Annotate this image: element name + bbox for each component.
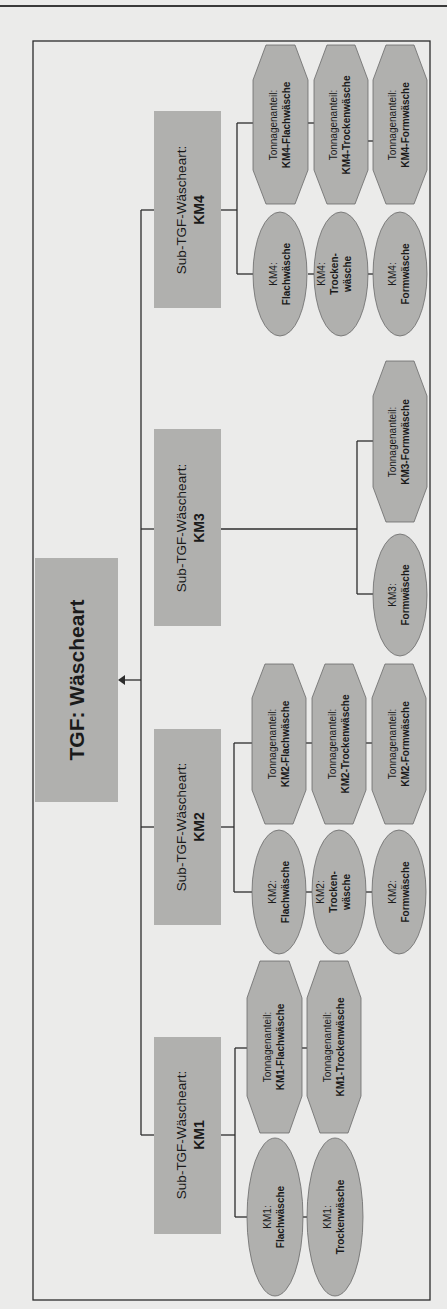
svg-text:Tonnagenanteil:: Tonnagenanteil: bbox=[328, 90, 339, 161]
svg-text:KM1-Trockenwäsche: KM1-Trockenwäsche bbox=[335, 997, 346, 1096]
svg-text:KM2:: KM2: bbox=[315, 880, 326, 903]
svg-text:KM3-Formwäsche: KM3-Formwäsche bbox=[400, 399, 411, 485]
root-label: TGF: Wäscheart bbox=[65, 599, 88, 760]
svg-text:KM2-Trockenwäsche: KM2-Trockenwäsche bbox=[340, 694, 351, 793]
subgroup-km2: Sub-TGF-Wäscheart: KM2 Tonnagenanteil: K… bbox=[154, 664, 426, 954]
root-node: TGF: Wäscheart bbox=[35, 558, 118, 802]
ellipse-km4-flach: KM4: Flachwäsche bbox=[253, 212, 307, 336]
sub-title-km3: Sub-TGF-Wäscheart: bbox=[174, 464, 189, 592]
ellipse-km1-flach: KM1: Flachwäsche bbox=[247, 1138, 303, 1296]
svg-text:KM4-Flachwäsche: KM4-Flachwäsche bbox=[281, 81, 292, 168]
arrow-to-root bbox=[118, 675, 141, 685]
ellipse-km4-form: KM4: Formwäsche bbox=[373, 212, 427, 336]
svg-text:Tonnagenanteil:: Tonnagenanteil: bbox=[327, 709, 338, 780]
ellipse-km4-trocken: KM4: Trocken- wäsche bbox=[314, 212, 368, 336]
svg-text:Tonnagenanteil:: Tonnagenanteil: bbox=[262, 1012, 273, 1083]
sub-title-km4: Sub-TGF-Wäscheart: bbox=[174, 146, 189, 274]
ellipse-km2-form: KM2: Formwäsche bbox=[372, 830, 426, 954]
svg-text:KM1:: KM1: bbox=[262, 1205, 273, 1228]
svg-text:Tonnagenanteil:: Tonnagenanteil: bbox=[387, 90, 398, 161]
arrowhead-icon bbox=[118, 675, 125, 685]
octagon-km4-flach: Tonnagenanteil: KM4-Flachwäsche bbox=[253, 45, 308, 204]
octagon-km4-form: Tonnagenanteil: KM4-Formwäsche bbox=[373, 45, 427, 204]
svg-text:KM4:: KM4: bbox=[387, 262, 398, 285]
svg-text:KM1-Flachwäsche: KM1-Flachwäsche bbox=[275, 1003, 286, 1090]
svg-text:KM4:: KM4: bbox=[268, 262, 279, 285]
octagon-km1-flach: Tonnagenanteil: KM1-Flachwäsche bbox=[247, 961, 302, 1133]
svg-text:KM4-Trockenwäsche: KM4-Trockenwäsche bbox=[341, 75, 352, 174]
svg-text:Flachwäsche: Flachwäsche bbox=[281, 242, 292, 305]
svg-text:Formwäsche: Formwäsche bbox=[400, 243, 411, 305]
hierarchy-diagram: TGF: Wäscheart Sub-TGF-Wäscheart: KM4 To… bbox=[0, 0, 447, 1309]
svg-text:Tonnagenanteil:: Tonnagenanteil: bbox=[387, 407, 398, 478]
sub-code-km3: KM3 bbox=[191, 513, 207, 543]
svg-text:KM4-Formwäsche: KM4-Formwäsche bbox=[400, 82, 411, 168]
subgroup-km1: Sub-TGF-Wäscheart: KM1 Tonnagenanteil: K… bbox=[154, 961, 363, 1296]
sub-code-km2: KM2 bbox=[191, 812, 207, 842]
octagon-km2-form: Tonnagenanteil: KM2-Formwäsche bbox=[372, 664, 426, 824]
svg-text:Tonnagenanteil:: Tonnagenanteil: bbox=[387, 709, 398, 780]
octagon-km1-trocken: Tonnagenanteil: KM1-Trockenwäsche bbox=[307, 961, 361, 1133]
svg-text:Formwäsche: Formwäsche bbox=[400, 564, 411, 626]
octagon-km2-trocken: Tonnagenanteil: KM2-Trockenwäsche bbox=[312, 664, 366, 824]
svg-text:KM4:: KM4: bbox=[316, 262, 327, 285]
svg-text:KM2:: KM2: bbox=[387, 880, 398, 903]
svg-text:KM3:: KM3: bbox=[387, 583, 398, 606]
subgroup-km3: Sub-TGF-Wäscheart: KM3 Tonnagenanteil: K… bbox=[154, 361, 427, 656]
svg-text:Trocken-: Trocken- bbox=[329, 253, 340, 295]
svg-text:KM2-Formwäsche: KM2-Formwäsche bbox=[400, 701, 411, 787]
svg-text:Tonnagenanteil:: Tonnagenanteil: bbox=[322, 1012, 333, 1083]
ellipse-km1-trocken: KM1: Trockenwäsche bbox=[307, 1138, 363, 1296]
svg-text:Trocken-: Trocken- bbox=[328, 871, 339, 913]
svg-text:KM1:: KM1: bbox=[322, 1205, 333, 1228]
svg-text:Tonnagenanteil:: Tonnagenanteil: bbox=[267, 709, 278, 780]
subgroup-km4: Sub-TGF-Wäscheart: KM4 Tonnagenanteil: K… bbox=[154, 45, 427, 336]
svg-text:Trockenwäsche: Trockenwäsche bbox=[335, 1179, 346, 1254]
svg-text:Flachwäsche: Flachwäsche bbox=[275, 1185, 286, 1248]
sub-title-km2: Sub-TGF-Wäscheart: bbox=[174, 763, 189, 891]
svg-text:wäsche: wäsche bbox=[342, 255, 353, 293]
ellipse-km2-trocken: KM2: Trocken- wäsche bbox=[312, 830, 366, 954]
svg-text:Flachwäsche: Flachwäsche bbox=[280, 860, 291, 923]
sub-title-km1: Sub-TGF-Wäscheart: bbox=[174, 1071, 189, 1199]
octagon-km4-trocken: Tonnagenanteil: KM4-Trockenwäsche bbox=[314, 45, 368, 204]
ellipse-km3-form: KM3: Formwäsche bbox=[373, 534, 427, 656]
svg-text:Tonnagenanteil:: Tonnagenanteil: bbox=[268, 90, 279, 161]
sub-code-km4: KM4 bbox=[191, 195, 207, 225]
svg-text:KM2-Flachwäsche: KM2-Flachwäsche bbox=[280, 700, 291, 787]
sub-code-km1: KM1 bbox=[191, 1120, 207, 1150]
svg-text:wäsche: wäsche bbox=[341, 873, 352, 911]
ellipse-km2-flach: KM2: Flachwäsche bbox=[252, 830, 306, 954]
svg-text:KM2:: KM2: bbox=[267, 880, 278, 903]
svg-text:Formwäsche: Formwäsche bbox=[400, 861, 411, 923]
octagon-km3-form: Tonnagenanteil: KM3-Formwäsche bbox=[373, 361, 427, 522]
octagon-km2-flach: Tonnagenanteil: KM2-Flachwäsche bbox=[252, 664, 306, 824]
